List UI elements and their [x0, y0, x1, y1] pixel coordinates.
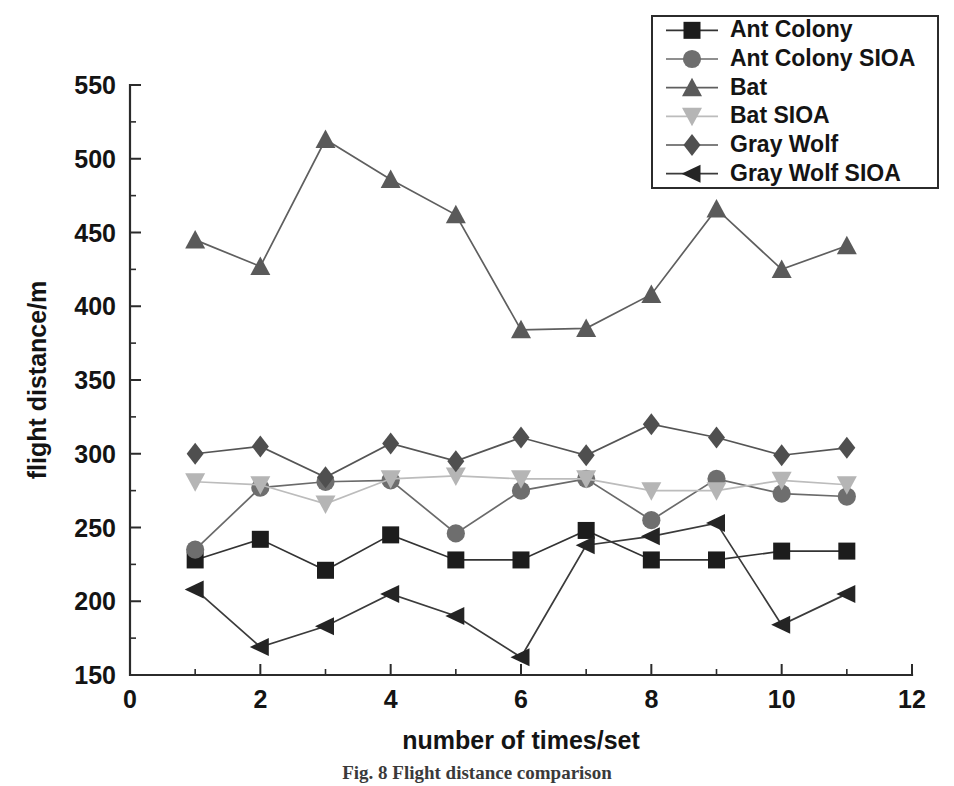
data-point-marker: [836, 585, 855, 603]
data-point-marker: [250, 256, 270, 275]
y-axis-title: flight distance/m: [23, 281, 51, 480]
data-point-marker: [185, 580, 204, 598]
series-ant-colony: [187, 522, 856, 579]
data-point-marker: [316, 130, 336, 149]
data-point-marker: [445, 607, 464, 625]
x-tick-label: 12: [898, 685, 926, 713]
data-point-marker: [643, 413, 660, 435]
data-point-marker: [382, 432, 399, 454]
chart-legend[interactable]: Ant ColonyAnt Colony SIOABatBat SIOAGray…: [652, 16, 938, 188]
data-point-marker: [252, 435, 269, 457]
data-point-marker: [187, 443, 204, 465]
x-axis-title: number of times/set: [402, 726, 640, 754]
data-point-marker: [315, 617, 334, 635]
data-point-marker: [381, 169, 401, 188]
data-point-marker: [641, 527, 660, 545]
y-tick-label: 550: [74, 71, 116, 99]
legend-label: Ant Colony SIOA: [730, 45, 915, 71]
data-point-marker: [380, 585, 399, 603]
data-point-marker: [252, 531, 269, 548]
line-chart: 150200250300350400450500550024681012numb…: [0, 0, 954, 786]
data-point-marker: [446, 205, 466, 224]
y-tick-label: 150: [74, 661, 116, 689]
legend-label: Bat: [730, 74, 767, 100]
x-tick-label: 10: [768, 685, 796, 713]
series-line: [195, 523, 847, 657]
legend-label: Gray Wolf: [730, 131, 839, 157]
data-point-marker: [837, 236, 857, 255]
data-point-marker: [773, 444, 790, 466]
data-point-marker: [185, 230, 205, 249]
legend-item-gray-wolf[interactable]: Gray Wolf: [666, 131, 839, 157]
y-tick-label: 250: [74, 514, 116, 542]
figure-caption: Fig. 8 Flight distance comparison: [0, 762, 954, 784]
data-point-marker: [317, 562, 334, 579]
data-point-marker: [511, 648, 530, 666]
x-tick-label: 8: [644, 685, 658, 713]
data-point-marker: [773, 543, 790, 560]
data-point-marker: [708, 427, 725, 449]
legend-label: Ant Colony: [730, 16, 853, 42]
data-point-marker: [708, 551, 725, 568]
x-tick-label: 6: [514, 685, 528, 713]
x-tick-label: 0: [123, 685, 137, 713]
x-tick-label: 4: [384, 685, 398, 713]
data-point-marker: [513, 427, 530, 449]
data-point-marker: [382, 526, 399, 543]
data-point-marker: [641, 284, 661, 303]
data-point-marker: [447, 524, 465, 542]
data-point-marker: [643, 551, 660, 568]
data-point-marker: [771, 616, 790, 634]
data-point-marker: [838, 437, 855, 459]
data-point-marker: [838, 543, 855, 560]
legend-label: Gray Wolf SIOA: [730, 160, 901, 186]
figure-container: 150200250300350400450500550024681012numb…: [0, 0, 954, 786]
data-point-marker: [578, 522, 595, 539]
data-point-marker: [706, 514, 725, 532]
data-point-marker: [186, 541, 204, 559]
legend-marker-square: [684, 22, 701, 39]
y-tick-label: 500: [74, 145, 116, 173]
y-tick-label: 300: [74, 440, 116, 468]
data-point-marker: [447, 551, 464, 568]
data-point-marker: [513, 551, 530, 568]
data-point-marker: [576, 318, 596, 337]
series-gray-wolf-sioa: [185, 514, 856, 666]
y-tick-label: 350: [74, 366, 116, 394]
legend-marker-circle: [683, 50, 701, 68]
data-point-marker: [642, 511, 660, 529]
data-point-marker: [578, 444, 595, 466]
y-tick-label: 450: [74, 219, 116, 247]
y-tick-label: 200: [74, 587, 116, 615]
data-point-marker: [707, 199, 727, 218]
data-point-marker: [316, 495, 336, 514]
data-series: [185, 130, 857, 667]
legend-label: Bat SIOA: [730, 102, 830, 128]
y-tick-label: 400: [74, 292, 116, 320]
x-tick-label: 2: [253, 685, 267, 713]
